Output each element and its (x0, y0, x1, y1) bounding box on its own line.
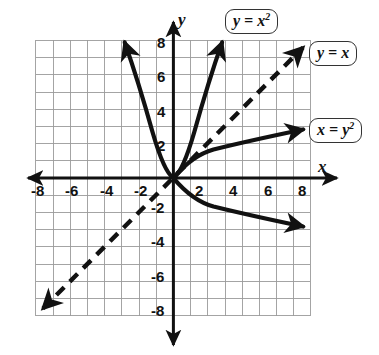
y-tick-label-6: 6 (157, 69, 165, 84)
x-tick-label--6: -6 (65, 183, 78, 198)
callout-lhs: y (233, 12, 240, 29)
label-y-equals-x-squared: y = x2 (225, 9, 278, 34)
x-tick-label-4: 4 (229, 183, 237, 198)
y-tick-label--4: -4 (151, 234, 164, 249)
x-tick-label-2: 2 (195, 183, 203, 198)
label-y-equals-x: y = x (309, 41, 357, 66)
callout-rhs: x (341, 44, 349, 61)
x-tick-label--2: -2 (134, 183, 147, 198)
callout-op: = (328, 44, 337, 61)
y-tick-label--6: -6 (151, 269, 164, 284)
callout-op: = (329, 121, 338, 138)
y-tick-label-8: 8 (157, 35, 165, 50)
x-axis-label: x (318, 158, 327, 175)
callout-exponent: 2 (265, 11, 270, 22)
callout-exponent: 2 (349, 120, 354, 131)
label-x-equals-y-squared: x = y2 (309, 118, 362, 143)
callout-lhs: x (317, 121, 325, 138)
callout-op: = (244, 12, 253, 29)
y-axis-label: y (178, 11, 186, 28)
callout-lhs: y (317, 44, 324, 61)
y-tick-label--8: -8 (151, 303, 164, 318)
graph-figure: -8 -6 -4 -2 2 4 6 8 8 6 4 2 -2 -4 -6 -8 … (0, 0, 379, 355)
y-tick-label--2: -2 (151, 200, 164, 215)
x-tick-label-6: 6 (264, 183, 272, 198)
y-tick-label-2: 2 (157, 138, 165, 153)
y-tick-label-4: 4 (157, 104, 165, 119)
x-tick-label--8: -8 (31, 183, 44, 198)
x-tick-label-8: 8 (298, 183, 306, 198)
x-tick-label--4: -4 (100, 183, 113, 198)
